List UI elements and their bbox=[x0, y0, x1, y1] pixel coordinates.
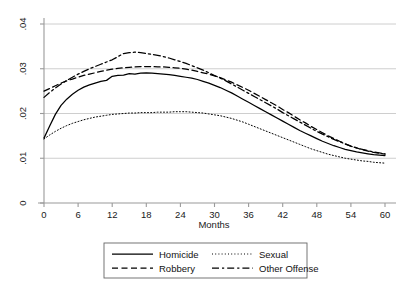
x-axis-tick-label: 6 bbox=[75, 209, 80, 220]
legend-label-robbery: Robbery bbox=[159, 263, 195, 274]
x-axis-tick-label: 36 bbox=[243, 209, 254, 220]
legend-label-sexual: Sexual bbox=[259, 249, 288, 260]
y-axis-tick-label: .04 bbox=[17, 17, 28, 30]
legend-label-homicide: Homicide bbox=[159, 249, 199, 260]
x-axis-tick-label: 48 bbox=[312, 209, 323, 220]
y-axis-tick-label: 0 bbox=[17, 200, 28, 205]
x-axis-tick-label: 12 bbox=[107, 209, 118, 220]
y-axis-tick-label: .01 bbox=[17, 152, 28, 165]
x-axis-tick-label: 42 bbox=[277, 209, 288, 220]
x-axis-tick-label: 60 bbox=[380, 209, 391, 220]
y-axis-tick-label: .03 bbox=[17, 62, 28, 75]
x-axis-title: Months bbox=[198, 219, 229, 230]
chart-container: 0.01.02.03.04 06121824303642485460 Month… bbox=[0, 0, 408, 286]
x-axis-tick-label: 24 bbox=[175, 209, 186, 220]
chart-legend: HomicideSexualRobberyOther Offense bbox=[104, 243, 319, 278]
x-axis-tick-label: 18 bbox=[141, 209, 152, 220]
x-axis-tick-label: 0 bbox=[41, 209, 46, 220]
x-axis-tick-label: 54 bbox=[346, 209, 357, 220]
y-axis-tick-label: .02 bbox=[17, 107, 28, 120]
legend-label-other-offense: Other Offense bbox=[259, 263, 319, 274]
crime-recidivism-line-chart: 0.01.02.03.04 06121824303642485460 Month… bbox=[0, 0, 408, 286]
